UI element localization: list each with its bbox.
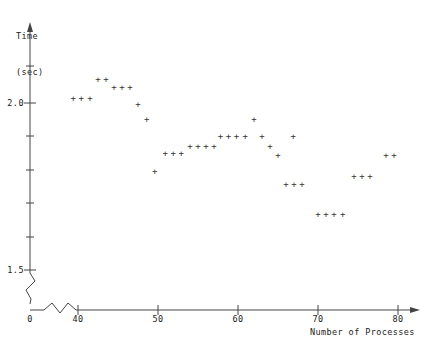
plot-area: +++++++++++++++++++++++++++++++++++++++	[0, 0, 435, 353]
scatter-chart: Time (sec) Number of Processes	[0, 0, 435, 353]
x-tick-label-80: 80	[386, 314, 410, 324]
data-point: +	[170, 148, 176, 158]
y-axis	[26, 22, 35, 304]
data-point: +	[359, 171, 365, 181]
data-points-group: +++++++++++++++++++++++++++++++++++++++	[70, 74, 397, 219]
data-point: +	[203, 141, 209, 151]
data-point: +	[135, 99, 141, 109]
x-tick-label-40: 40	[66, 314, 90, 324]
y-axis-arrow-icon	[27, 22, 33, 32]
x-axis-break-icon	[44, 303, 76, 313]
data-point: +	[283, 179, 289, 189]
data-point: +	[383, 150, 389, 160]
x-axis-arrow-icon	[410, 307, 420, 313]
data-point: +	[87, 93, 93, 103]
data-point: +	[259, 131, 265, 141]
data-point: +	[323, 209, 329, 219]
y-tick-label-1-5: 1.5	[0, 265, 24, 275]
data-point: +	[70, 93, 76, 103]
data-point: +	[290, 131, 296, 141]
x-tick-label-70: 70	[306, 314, 330, 324]
data-point: +	[226, 131, 232, 141]
data-point: +	[195, 141, 201, 151]
data-point: +	[391, 150, 397, 160]
data-point: +	[162, 148, 168, 158]
data-point: +	[242, 131, 248, 141]
data-point: +	[351, 171, 357, 181]
data-point: +	[218, 131, 224, 141]
data-point: +	[291, 179, 297, 189]
data-point: +	[251, 114, 257, 124]
data-point: +	[78, 93, 84, 103]
x-tick-label-0: 0	[22, 314, 38, 324]
data-point: +	[331, 209, 337, 219]
x-tick-label-60: 60	[226, 314, 250, 324]
data-point: +	[299, 179, 305, 189]
data-point: +	[103, 74, 109, 84]
data-point: +	[95, 74, 101, 84]
data-point: +	[315, 209, 321, 219]
data-point: +	[211, 141, 217, 151]
x-axis	[30, 303, 420, 313]
data-point: +	[234, 131, 240, 141]
y-tick-label-2-0: 2.0	[0, 98, 24, 108]
data-point: +	[187, 141, 193, 151]
data-point: +	[119, 82, 125, 92]
data-point: +	[340, 209, 346, 219]
data-point: +	[152, 166, 158, 176]
data-point: +	[275, 150, 281, 160]
y-axis-break-icon	[26, 273, 35, 304]
data-point: +	[111, 82, 117, 92]
x-tick-label-50: 50	[146, 314, 170, 324]
data-point: +	[267, 141, 273, 151]
data-point: +	[178, 148, 184, 158]
data-point: +	[144, 114, 150, 124]
data-point: +	[127, 82, 133, 92]
data-point: +	[367, 171, 373, 181]
